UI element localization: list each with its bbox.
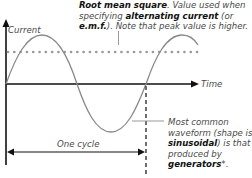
one-cycle-arrow-left-icon: [7, 149, 14, 156]
rms-text: specifying: [79, 11, 125, 21]
rms-text: (or: [218, 11, 233, 21]
x-axis-label: Time: [201, 79, 222, 90]
ac-term: alternating current: [125, 11, 218, 21]
waveform-text: waveform (shape is: [168, 128, 252, 139]
waveform-text: ) is that: [217, 138, 250, 148]
waveform-annotation: Most common waveform (shape is sinusoida…: [168, 117, 252, 170]
waveform-text: *.: [221, 159, 228, 169]
rms-text: . Value used when: [167, 0, 246, 10]
generators-term: generators: [168, 159, 221, 169]
rms-annotation: Root mean square. Value used when specif…: [79, 0, 248, 32]
waveform-text: produced by: [168, 149, 252, 160]
rms-text: ). Note that peak value is higher.: [107, 21, 248, 31]
y-axis-label: Current: [8, 25, 41, 36]
one-cycle-label: One cycle: [57, 139, 99, 150]
one-cycle-arrow-right-icon: [138, 149, 145, 156]
time-axis-arrow-icon: [191, 81, 199, 88]
rms-term: Root mean square: [79, 0, 167, 10]
emf-term: e.m.f.: [79, 21, 107, 31]
sinusoidal-term: sinusoidal: [168, 138, 217, 148]
waveform-text: Most common: [168, 117, 252, 128]
